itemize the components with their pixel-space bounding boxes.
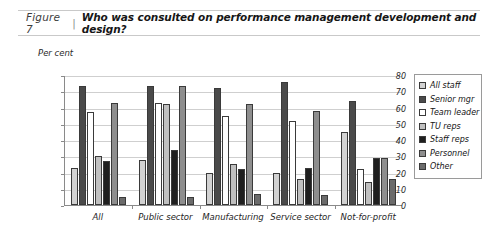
legend-item[interactable]: Senior mgr [419, 93, 478, 107]
x-axis-label: Not-for-profit [334, 212, 402, 222]
legend-label: Staff reps [430, 135, 469, 144]
bar [206, 173, 213, 206]
y-tick-mark [61, 76, 64, 77]
bar [273, 173, 280, 206]
bar [246, 104, 253, 205]
chart-legend: All staffSenior mgrTeam leaderTU repsSta… [414, 74, 482, 179]
y-tick-mark [61, 141, 64, 142]
bar-group [267, 76, 334, 205]
y-tick-mark [61, 92, 64, 93]
x-tick-mark [200, 205, 201, 209]
bar [147, 86, 154, 205]
x-tick-mark [132, 205, 133, 209]
bar [289, 121, 296, 206]
legend-label: TU reps [430, 122, 461, 131]
y-tick-mark [61, 206, 64, 207]
x-axis-label: Public sector [132, 212, 200, 222]
bar [365, 182, 372, 205]
y-tick-label: 70 [386, 88, 406, 97]
bar [254, 194, 261, 205]
bar [341, 132, 348, 205]
header-divider: | [66, 17, 82, 29]
y-tick-mark [61, 190, 64, 191]
bar [373, 158, 380, 205]
legend-swatch-icon [419, 82, 426, 89]
legend-swatch-icon [419, 150, 426, 157]
legend-item[interactable]: TU reps [419, 120, 478, 134]
legend-item[interactable]: Staff reps [419, 133, 478, 147]
bar [119, 197, 126, 205]
bar [297, 179, 304, 205]
y-tick-label: 80 [386, 72, 406, 81]
x-axis-label: All [64, 212, 132, 222]
legend-swatch-icon [419, 123, 426, 130]
y-axis-label: Per cent [38, 48, 73, 58]
legend-swatch-icon [419, 136, 426, 143]
bar [381, 158, 388, 205]
y-tick-label: 10 [386, 185, 406, 194]
y-tick-mark [61, 157, 64, 158]
y-tick-label: 50 [386, 120, 406, 129]
bar [321, 195, 328, 205]
x-tick-mark [267, 205, 268, 209]
bar [349, 101, 356, 205]
x-axis-labels: AllPublic sectorManufacturingService sec… [64, 212, 402, 222]
figure-title: Who was consulted on performance managem… [82, 11, 480, 35]
y-tick-mark [61, 174, 64, 175]
bar [103, 161, 110, 205]
legend-swatch-icon [419, 96, 426, 103]
x-axis-label: Service sector [267, 212, 335, 222]
legend-swatch-icon [419, 109, 426, 116]
bar [214, 88, 221, 205]
bar [230, 164, 237, 205]
bar [179, 86, 186, 205]
bar-groups [65, 76, 402, 205]
bar [281, 82, 288, 206]
bar-group [132, 76, 199, 205]
bar [238, 169, 245, 205]
bar [357, 169, 364, 205]
plot-region [64, 76, 402, 206]
legend-swatch-icon [419, 163, 426, 170]
bar [111, 103, 118, 205]
bar-group [65, 76, 132, 205]
legend-label: Other [430, 162, 453, 171]
legend-label: Team leader [430, 108, 479, 117]
bar [187, 197, 194, 205]
y-tick-label: 40 [386, 137, 406, 146]
legend-label: All staff [430, 81, 460, 90]
legend-item[interactable]: All staff [419, 79, 478, 93]
bar-group [200, 76, 267, 205]
y-tick-label: 0 [386, 202, 406, 211]
bar [222, 116, 229, 205]
x-axis-label: Manufacturing [199, 212, 267, 222]
legend-label: Personnel [430, 149, 469, 158]
figure-header: Figure 7 | Who was consulted on performa… [18, 10, 480, 36]
bar [71, 168, 78, 205]
y-tick-mark [61, 109, 64, 110]
bar [139, 160, 146, 206]
bar [171, 150, 178, 205]
y-tick-label: 20 [386, 169, 406, 178]
x-tick-mark [335, 205, 336, 209]
bar [155, 103, 162, 205]
bar [95, 156, 102, 205]
bar [87, 112, 94, 205]
bar [163, 104, 170, 205]
legend-item[interactable]: Personnel [419, 147, 478, 161]
y-tick-mark [61, 125, 64, 126]
bar [305, 168, 312, 205]
legend-item[interactable]: Team leader [419, 106, 478, 120]
bar [79, 86, 86, 205]
legend-item[interactable]: Other [419, 160, 478, 174]
y-tick-label: 30 [386, 153, 406, 162]
figure-number: Figure 7 [18, 11, 66, 35]
chart-area: 01020304050607080 AllPublic sectorManufa… [40, 72, 406, 212]
y-tick-label: 60 [386, 104, 406, 113]
bar [313, 111, 320, 205]
figure-panel: Figure 7 | Who was consulted on performa… [0, 0, 494, 240]
legend-label: Senior mgr [430, 95, 474, 104]
